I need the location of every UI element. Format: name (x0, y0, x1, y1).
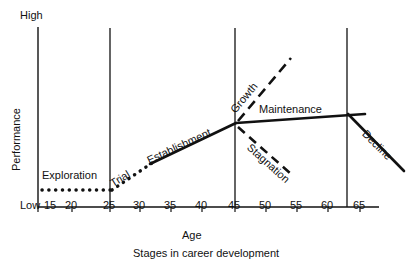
x-tick-label-15: 15 (44, 200, 56, 211)
x-tick-label-20: 20 (65, 200, 77, 211)
x-tick-label-35: 35 (164, 200, 176, 211)
x-tick-label-60: 60 (321, 200, 333, 211)
curve-maintenance (236, 114, 365, 123)
x-tick-label-50: 50 (259, 200, 271, 211)
x-tick-label-55: 55 (290, 200, 302, 211)
y-axis-title: Performance (11, 108, 22, 171)
x-tick-label-40: 40 (195, 200, 207, 211)
career-development-figure: High Low Performance 15 20 25 30 35 40 4… (0, 0, 415, 263)
stage-label-maintenance: Maintenance (259, 104, 322, 115)
y-axis-high-label: High (20, 10, 43, 21)
x-tick-label-30: 30 (133, 200, 145, 211)
x-axis-title: Age (182, 230, 202, 241)
stage-label-exploration: Exploration (42, 170, 97, 181)
x-tick-label-65: 65 (353, 200, 365, 211)
figure-caption: Stages in career development (133, 248, 279, 259)
x-tick-label-45: 45 (228, 200, 240, 211)
y-axis-low-label: Low (20, 200, 40, 211)
x-tick-label-25: 25 (103, 200, 115, 211)
